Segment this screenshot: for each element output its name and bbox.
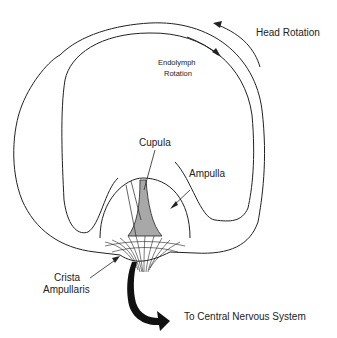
head-rotation-arrow xyxy=(218,25,260,67)
ampulla-label: Ampulla xyxy=(189,168,225,179)
endolymph-label-2: Rotation xyxy=(164,69,192,78)
crista-label-1: Crista xyxy=(54,272,80,283)
head-rotation-label: Head Rotation xyxy=(256,27,320,38)
cupula-label: Cupula xyxy=(139,137,171,148)
nerve-arrow xyxy=(127,262,170,331)
crista-label-2: Ampullaris xyxy=(43,284,90,295)
crista-fibers xyxy=(105,236,185,272)
cns-label: To Central Nervous System xyxy=(184,311,306,322)
endolymph-label-1: Endolymph xyxy=(158,58,196,67)
